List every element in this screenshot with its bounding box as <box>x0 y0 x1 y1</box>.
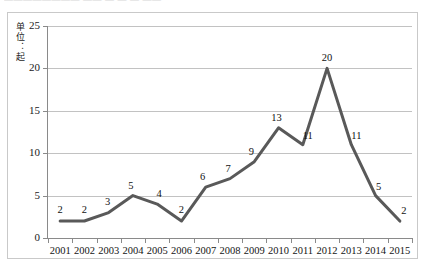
y-tick-label: 5 <box>16 190 40 201</box>
data-point-label: 13 <box>265 112 289 123</box>
x-tick-mark <box>242 238 243 243</box>
x-axis-line <box>47 238 413 239</box>
x-tick-label: 2015 <box>385 245 415 257</box>
y-tick-mark <box>43 111 48 112</box>
y-tick-mark <box>43 153 48 154</box>
x-tick-mark <box>218 238 219 243</box>
gridline <box>48 111 412 112</box>
data-point-label: 11 <box>296 130 320 141</box>
x-tick-mark <box>363 238 364 243</box>
data-point-label: 2 <box>169 204 193 215</box>
data-point-label: 4 <box>147 188 171 199</box>
x-tick-mark <box>48 238 49 243</box>
gridline <box>48 68 412 69</box>
data-point-label: 20 <box>315 52 339 63</box>
gridline <box>48 153 412 154</box>
data-point-label: 2 <box>392 205 416 216</box>
x-tick-mark <box>97 238 98 243</box>
y-tick-mark <box>43 26 48 27</box>
x-tick-mark <box>266 238 267 243</box>
data-point-label: 6 <box>191 171 215 182</box>
data-point-label: 9 <box>239 146 263 157</box>
y-axis-tick-labels: 0510152025 <box>14 0 40 276</box>
y-tick-label: 25 <box>16 20 40 31</box>
data-point-label: 5 <box>367 181 391 192</box>
y-tick-mark <box>43 196 48 197</box>
x-tick-mark <box>121 238 122 243</box>
gridline <box>48 26 412 27</box>
y-tick-label: 10 <box>16 147 40 158</box>
data-point-label: 11 <box>344 130 368 141</box>
x-tick-mark <box>339 238 340 243</box>
y-tick-label: 15 <box>16 105 40 116</box>
x-tick-mark <box>315 238 316 243</box>
x-tick-mark <box>169 238 170 243</box>
x-tick-mark <box>145 238 146 243</box>
y-tick-label: 0 <box>16 232 40 243</box>
data-point-label: 7 <box>216 163 240 174</box>
x-tick-mark <box>412 238 413 243</box>
data-point-label: 5 <box>119 180 143 191</box>
x-tick-mark <box>194 238 195 243</box>
data-point-label: 2 <box>72 204 96 215</box>
y-tick-mark <box>43 68 48 69</box>
data-point-label: 2 <box>48 204 72 215</box>
x-tick-mark <box>388 238 389 243</box>
y-tick-label: 20 <box>16 62 40 73</box>
x-tick-mark <box>291 238 292 243</box>
data-point-label: 3 <box>96 196 120 207</box>
x-tick-mark <box>72 238 73 243</box>
